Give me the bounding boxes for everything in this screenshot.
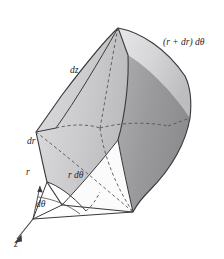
radius-arrowhead-icon [37,186,43,193]
label-radius-r: r [26,168,30,178]
label-axis-z: z [14,240,18,250]
label-radial-thickness-dr: dr [27,137,35,147]
z-axis-line [17,219,33,239]
label-inner-arc-length: r dθ [68,171,84,181]
label-outer-arc-length: (r + dr) dθ [163,38,204,48]
cylindrical-volume-element-figure: (r + dr) dθ dz dr r r dθ dθ z [0,0,224,259]
label-height-dz: dz [70,66,78,76]
label-angle-dtheta: dθ [36,200,45,210]
